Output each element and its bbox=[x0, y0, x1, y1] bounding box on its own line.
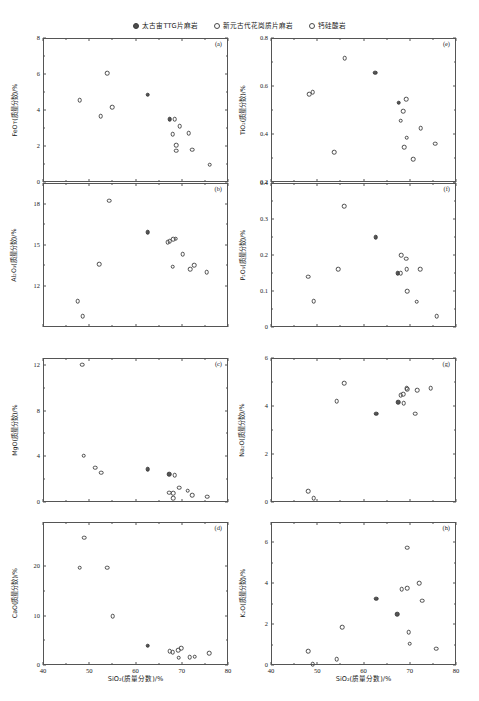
y-tick-mark bbox=[43, 244, 46, 245]
data-point bbox=[173, 117, 178, 122]
y-minor-tick-mark bbox=[271, 430, 273, 431]
data-point bbox=[170, 132, 175, 137]
y-minor-tick-mark bbox=[43, 479, 45, 480]
y-tick-label: 0 bbox=[265, 324, 268, 330]
data-point bbox=[99, 114, 104, 119]
y-axis-label: P₂O₅(质量分数)/% bbox=[237, 183, 249, 327]
y-tick-label: 10 bbox=[34, 612, 40, 618]
data-point bbox=[402, 145, 407, 150]
data-point bbox=[420, 598, 425, 603]
data-point bbox=[167, 117, 172, 122]
y-tick-mark bbox=[225, 364, 228, 365]
x-tick-mark bbox=[181, 662, 182, 665]
panel-c: (c)MgO(质量分数)/%04812 bbox=[43, 358, 228, 502]
x-tick-mark bbox=[409, 179, 410, 182]
x-minor-tick-mark bbox=[112, 325, 113, 327]
x-minor-tick-mark bbox=[66, 358, 67, 360]
y-minor-tick-mark bbox=[271, 62, 273, 63]
y-tick-mark bbox=[43, 410, 46, 411]
y-minor-tick-mark bbox=[454, 478, 456, 479]
data-point bbox=[306, 489, 311, 494]
data-point bbox=[405, 586, 410, 591]
x-minor-tick-mark bbox=[432, 180, 433, 182]
x-tick-mark bbox=[271, 324, 272, 327]
x-minor-tick-mark bbox=[432, 358, 433, 360]
data-point bbox=[77, 98, 82, 103]
plot-frame bbox=[43, 38, 228, 182]
y-axis-label: MgO(质量分数)/% bbox=[9, 358, 21, 502]
y-axis-label: K₂O(质量分数)/% bbox=[237, 522, 249, 665]
y-minor-tick-mark bbox=[454, 603, 456, 604]
y-minor-tick-mark bbox=[454, 562, 456, 563]
y-minor-tick-mark bbox=[226, 479, 228, 480]
data-point bbox=[414, 300, 419, 305]
y-minor-tick-mark bbox=[454, 62, 456, 63]
x-tick-mark bbox=[317, 183, 318, 186]
panel-label: (b) bbox=[215, 186, 222, 192]
x-minor-tick-mark bbox=[294, 522, 295, 524]
data-point bbox=[311, 299, 316, 304]
y-axis-label: CaO(质量分数)/% bbox=[9, 522, 21, 665]
x-minor-tick-mark bbox=[158, 180, 159, 182]
y-tick-label: 12 bbox=[34, 362, 40, 368]
x-tick-mark bbox=[456, 324, 457, 327]
y-tick-mark bbox=[453, 583, 456, 584]
y-tick-mark bbox=[225, 615, 228, 616]
y-axis-label: FeOᴛ(质量分数)/% bbox=[9, 38, 21, 182]
x-minor-tick-mark bbox=[112, 180, 113, 182]
data-point bbox=[75, 299, 80, 304]
data-point bbox=[111, 614, 116, 619]
y-tick-mark bbox=[43, 74, 46, 75]
plot-frame bbox=[43, 522, 228, 665]
x-tick-mark bbox=[409, 499, 410, 502]
x-minor-tick-mark bbox=[386, 500, 387, 502]
x-tick-mark bbox=[456, 522, 457, 525]
y-minor-tick-mark bbox=[43, 433, 45, 434]
data-point bbox=[77, 566, 82, 571]
x-minor-tick-mark bbox=[66, 325, 67, 327]
x-tick-mark bbox=[228, 38, 229, 41]
x-minor-tick-mark bbox=[204, 325, 205, 327]
y-tick-mark bbox=[225, 244, 228, 245]
data-point bbox=[205, 495, 210, 500]
data-point bbox=[170, 264, 175, 269]
y-tick-label: 8 bbox=[37, 407, 40, 413]
data-point bbox=[417, 581, 422, 586]
x-tick-mark bbox=[456, 183, 457, 186]
x-tick-mark bbox=[271, 358, 272, 361]
x-minor-tick-mark bbox=[432, 38, 433, 40]
x-tick-mark bbox=[135, 662, 136, 665]
x-minor-tick-mark bbox=[158, 325, 159, 327]
data-point bbox=[174, 143, 179, 148]
x-minor-tick-mark bbox=[204, 183, 205, 185]
y-tick-label: 6 bbox=[265, 539, 268, 545]
x-minor-tick-mark bbox=[294, 663, 295, 665]
data-point bbox=[82, 535, 87, 540]
x-tick-mark bbox=[409, 183, 410, 186]
y-minor-tick-mark bbox=[454, 201, 456, 202]
y-tick-label: 0.8 bbox=[260, 35, 268, 41]
data-point bbox=[340, 625, 345, 630]
y-minor-tick-mark bbox=[226, 92, 228, 93]
y-tick-label: 0 bbox=[265, 499, 268, 505]
x-tick-mark bbox=[135, 499, 136, 502]
y-tick-mark bbox=[453, 86, 456, 87]
data-point bbox=[188, 267, 193, 272]
x-tick-mark bbox=[456, 662, 457, 665]
y-tick-label: 6 bbox=[37, 71, 40, 77]
y-tick-label: 2 bbox=[265, 621, 268, 627]
y-tick-mark bbox=[43, 615, 46, 616]
data-point bbox=[171, 496, 176, 501]
y-tick-mark bbox=[43, 456, 46, 457]
y-tick-mark bbox=[43, 566, 46, 567]
y-minor-tick-mark bbox=[43, 265, 45, 266]
data-point bbox=[80, 314, 85, 319]
y-minor-tick-mark bbox=[271, 562, 273, 563]
y-tick-mark bbox=[271, 406, 274, 407]
x-minor-tick-mark bbox=[158, 522, 159, 524]
y-tick-mark bbox=[453, 255, 456, 256]
y-tick-label: 2 bbox=[265, 451, 268, 457]
data-point bbox=[185, 488, 190, 493]
x-tick-label: 60 bbox=[360, 668, 367, 675]
y-minor-tick-mark bbox=[271, 201, 273, 202]
